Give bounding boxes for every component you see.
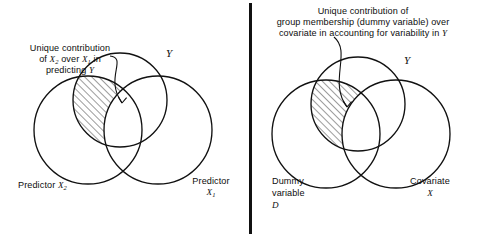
left-caption-in: in <box>91 54 101 64</box>
label-predictor-x1-varwrap: X1 <box>206 187 215 197</box>
label-predictor-x1-sub: 1 <box>212 191 215 198</box>
label-dummy-var: D <box>272 200 279 210</box>
label-covariate-var: X <box>427 188 433 198</box>
left-caption-over: over <box>59 54 82 64</box>
label-y-right: Y <box>404 54 410 67</box>
label-dummy-line1: Dummy <box>272 176 304 186</box>
right-caption-line1: Unique contribution of <box>318 6 409 16</box>
label-covariate: Covariate X <box>400 176 460 200</box>
right-caption: Unique contribution of group membership … <box>252 6 474 39</box>
left-caption-predicting: predicting <box>46 65 89 75</box>
figure-canvas: Unique contribution of X2 over X1 in pre… <box>0 0 478 238</box>
left-caption-y: Y <box>89 65 94 75</box>
right-caption-line2: group membership (dummy variable) over <box>277 17 450 27</box>
label-dummy-variable: Dummy variable D <box>272 176 334 211</box>
label-predictor-x2-sub: 2 <box>64 184 67 191</box>
left-caption: Unique contribution of X2 over X1 in pre… <box>6 43 134 76</box>
label-predictor-x1: Predictor X1 <box>183 176 239 199</box>
left-caption-of: of <box>39 54 49 64</box>
left-caption-line1: Unique contribution <box>30 43 110 53</box>
label-dummy-line2: variable <box>272 188 305 198</box>
right-caption-y: Y <box>442 28 447 38</box>
right-caption-line3-text: covariate in accounting for variability … <box>279 28 442 38</box>
label-predictor-x2: Predictor X2 <box>18 180 67 191</box>
right-caption-line3: covariate in accounting for variability … <box>279 28 447 38</box>
label-y-left: Y <box>166 47 172 60</box>
label-predictor-x2-text: Predictor <box>18 180 58 190</box>
label-predictor-x1-text: Predictor <box>192 176 229 186</box>
left-caption-line3: predicting Y <box>46 65 94 75</box>
left-caption-line2: of X2 over X1 in <box>39 54 101 64</box>
label-covariate-text: Covariate <box>410 176 450 186</box>
